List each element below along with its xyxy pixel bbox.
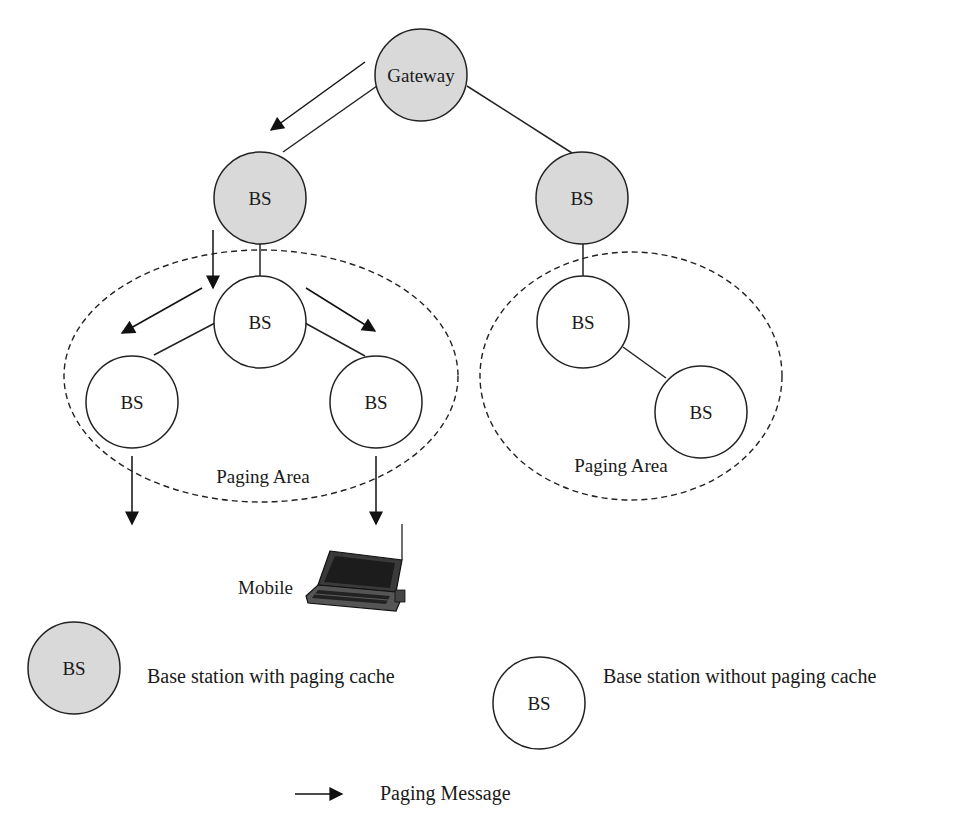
paging-area-right-label: Paging Area (574, 455, 668, 476)
bs-label: BS (120, 392, 143, 413)
laptop-icon (306, 551, 405, 611)
legend-nocache: BS Base station without paging cache (493, 657, 876, 749)
gateway-label: Gateway (387, 65, 455, 86)
bs-label: BS (571, 312, 594, 333)
paging-diagram: Gateway BS BS BS BS BS BS BS Paging Area… (0, 0, 954, 831)
bs-right-low-node: BS (655, 366, 747, 458)
bs-label: BS (570, 188, 593, 209)
bs-left-low-left-node: BS (86, 356, 178, 448)
bs-label: BS (248, 188, 271, 209)
bs-label: BS (248, 312, 271, 333)
legend-arrow: Paging Message (295, 782, 511, 805)
legend-arrow-description: Paging Message (380, 782, 511, 805)
legend-cache-node-label: BS (62, 658, 85, 679)
bs-left-low-right-node: BS (330, 356, 422, 448)
bs-label: BS (364, 392, 387, 413)
legend-cache-description: Base station with paging cache (147, 665, 395, 688)
bs-right-mid-node: BS (537, 276, 629, 368)
legend-cache: BS Base station with paging cache (28, 622, 395, 714)
bs-left-mid-node: BS (214, 276, 306, 368)
bs-right-cache-node: BS (536, 152, 628, 244)
mobile-label: Mobile (238, 577, 293, 598)
legend-nocache-node-label: BS (527, 693, 550, 714)
bs-label: BS (689, 402, 712, 423)
paging-area-left-label: Paging Area (216, 466, 310, 487)
bs-left-cache-node: BS (214, 152, 306, 244)
gateway-node: Gateway (375, 29, 467, 121)
legend-nocache-description: Base station without paging cache (603, 665, 876, 688)
